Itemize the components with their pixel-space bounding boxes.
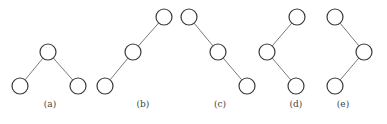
tree-edge [53, 58, 72, 80]
tree-edge [25, 58, 43, 80]
tree-caption: (c) [214, 99, 226, 109]
tree-e: (e) [327, 9, 372, 109]
tree-edge [194, 23, 213, 46]
tree-node [210, 44, 226, 60]
tree-node [70, 78, 86, 94]
tree-node [327, 78, 343, 94]
tree-edge [110, 58, 128, 80]
tree-edge [223, 58, 242, 80]
tree-caption: (d) [290, 99, 303, 109]
tree-c: (c) [181, 9, 255, 109]
tree-edge [340, 58, 359, 80]
tree-node [12, 78, 28, 94]
tree-node [259, 44, 275, 60]
tree-node [356, 44, 372, 60]
tree-caption: (e) [337, 99, 349, 109]
tree-edge [340, 23, 359, 46]
binary-trees-figure: (a)(b)(c)(d)(e) [0, 0, 387, 124]
trees-canvas: (a)(b)(c)(d)(e) [0, 0, 387, 124]
tree-node [125, 44, 141, 60]
tree-node [239, 78, 255, 94]
tree-node [181, 9, 197, 25]
tree-node [97, 78, 113, 94]
tree-node [156, 9, 172, 25]
tree-edge [138, 23, 158, 46]
tree-edge [272, 23, 292, 46]
tree-caption: (a) [44, 99, 56, 109]
tree-a: (a) [12, 44, 86, 109]
tree-node [40, 44, 56, 60]
tree-edge [272, 58, 291, 80]
tree-b: (b) [97, 9, 172, 109]
tree-node [327, 9, 343, 25]
tree-caption: (b) [137, 99, 150, 109]
tree-node [288, 78, 304, 94]
tree-node [289, 9, 305, 25]
tree-d: (d) [259, 9, 305, 109]
